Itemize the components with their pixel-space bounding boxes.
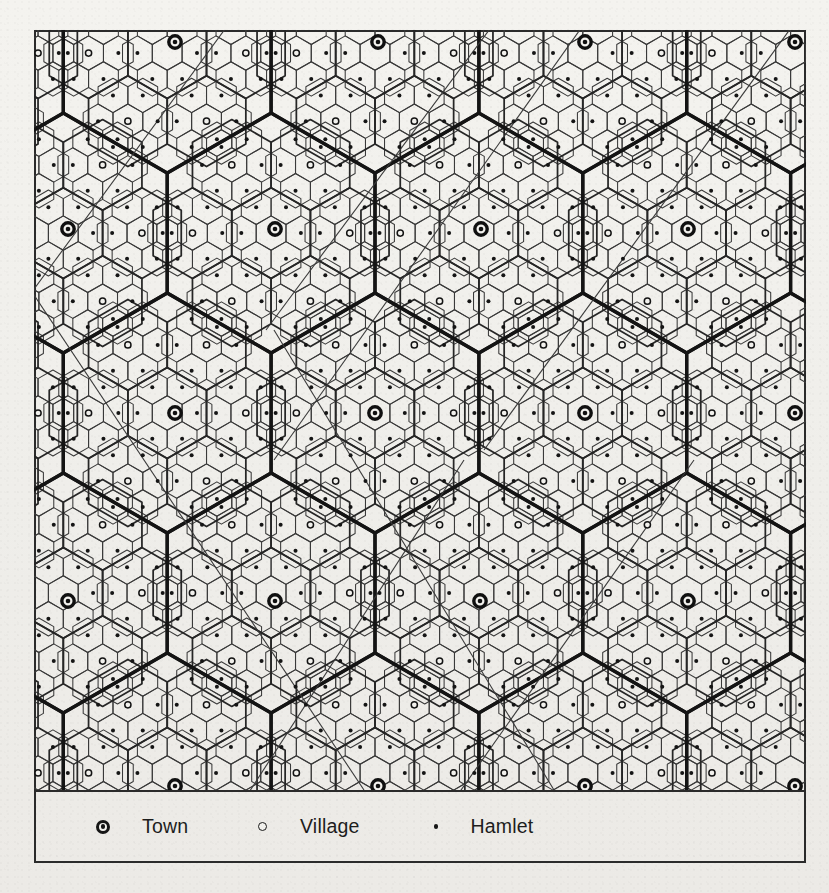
hamlet-marker bbox=[96, 343, 100, 347]
hamlet-marker bbox=[675, 659, 679, 663]
hamlet-marker bbox=[245, 497, 249, 501]
hamlet-marker bbox=[674, 385, 678, 389]
village-marker bbox=[515, 522, 521, 528]
hamlet-marker bbox=[422, 771, 426, 775]
village-marker bbox=[35, 50, 41, 56]
hamlet-marker bbox=[571, 479, 575, 483]
hamlet-marker bbox=[219, 505, 223, 509]
hamlet-marker bbox=[219, 369, 223, 373]
village-marker bbox=[189, 590, 195, 596]
hamlet-marker bbox=[635, 145, 639, 149]
hamlet-marker bbox=[621, 617, 625, 621]
hamlet-marker bbox=[442, 119, 446, 123]
hamlet-marker bbox=[799, 617, 803, 621]
village-marker bbox=[293, 770, 299, 776]
village-marker bbox=[229, 298, 235, 304]
hamlet-marker bbox=[527, 93, 531, 97]
hamlet-marker bbox=[46, 205, 50, 209]
hamlet-marker bbox=[501, 137, 505, 141]
hamlet-marker bbox=[190, 677, 194, 681]
hamlet-marker bbox=[734, 231, 738, 235]
hamlet-marker bbox=[66, 411, 70, 415]
hamlet-marker bbox=[605, 505, 609, 509]
legend-label-village: Village bbox=[300, 815, 360, 838]
hamlet-marker bbox=[333, 565, 337, 569]
hamlet-marker bbox=[798, 119, 802, 123]
hamlet-marker bbox=[245, 549, 249, 553]
hamlet-marker bbox=[556, 677, 560, 681]
hamlet-marker bbox=[324, 411, 328, 415]
hamlet-marker bbox=[72, 77, 76, 81]
hamlet-marker bbox=[254, 565, 258, 569]
hamlet-marker bbox=[739, 325, 743, 329]
hamlet-marker bbox=[472, 411, 476, 415]
village-marker bbox=[723, 162, 729, 168]
hamlet-marker bbox=[764, 93, 768, 97]
hamlet-marker bbox=[383, 343, 387, 347]
hamlet-marker bbox=[323, 497, 327, 501]
hamlet-marker bbox=[220, 231, 224, 235]
hamlet-marker bbox=[709, 189, 713, 193]
village-marker bbox=[411, 478, 417, 484]
hamlet-marker bbox=[383, 703, 387, 707]
hamlet-marker bbox=[531, 685, 535, 689]
hamlet-marker bbox=[566, 437, 570, 441]
hamlet-marker bbox=[739, 549, 743, 553]
hamlet-marker bbox=[501, 549, 505, 553]
hamlet-marker bbox=[799, 257, 803, 261]
hamlet-marker bbox=[76, 205, 80, 209]
hamlet-marker bbox=[481, 411, 485, 415]
central-place-map bbox=[34, 30, 806, 790]
hamlet-marker bbox=[319, 145, 323, 149]
hexagon bbox=[296, 782, 326, 791]
hexagon bbox=[296, 30, 326, 45]
hamlet-marker bbox=[774, 385, 778, 389]
hamlet-marker bbox=[51, 437, 55, 441]
hamlet-marker bbox=[556, 369, 560, 373]
hamlet-marker bbox=[205, 617, 209, 621]
hamlet-marker bbox=[695, 385, 699, 389]
town-marker-dot bbox=[479, 227, 484, 232]
hamlet-marker bbox=[798, 479, 802, 483]
hamlet-marker bbox=[86, 273, 90, 277]
hamlet-marker bbox=[37, 685, 41, 689]
hamlet-marker bbox=[111, 145, 115, 149]
hamlet-marker bbox=[694, 163, 698, 167]
hamlet-marker bbox=[259, 745, 263, 749]
hamlet-marker bbox=[734, 453, 738, 457]
hamlet-marker bbox=[670, 257, 674, 261]
hamlet-marker bbox=[200, 299, 204, 303]
hexagon bbox=[761, 30, 791, 45]
hamlet-marker bbox=[452, 549, 456, 553]
hamlet-marker bbox=[358, 77, 362, 81]
hamlet-marker bbox=[423, 633, 427, 637]
hamlet-marker bbox=[57, 51, 61, 55]
hamlet-marker bbox=[215, 137, 219, 141]
hamlet-marker bbox=[363, 343, 367, 347]
transport-routes bbox=[34, 30, 804, 790]
hamlet-marker bbox=[556, 145, 560, 149]
village-marker bbox=[723, 522, 729, 528]
village-symbol bbox=[258, 822, 267, 831]
hamlet-marker bbox=[486, 659, 490, 663]
hamlet-marker bbox=[709, 273, 713, 277]
hamlet-marker bbox=[279, 77, 283, 81]
village-marker bbox=[619, 478, 625, 484]
hamlet-marker bbox=[527, 505, 531, 509]
hamlet-marker bbox=[265, 411, 269, 415]
hamlet-marker bbox=[219, 677, 223, 681]
hamlet-marker bbox=[700, 565, 704, 569]
hamlet-marker bbox=[427, 145, 431, 149]
hamlet-marker bbox=[116, 685, 120, 689]
hamlet-marker bbox=[442, 479, 446, 483]
hamlet-marker bbox=[551, 411, 555, 415]
hamlet-marker bbox=[279, 659, 283, 663]
town-marker-dot bbox=[793, 411, 798, 416]
hamlet-marker bbox=[383, 479, 387, 483]
hamlet-marker bbox=[96, 703, 100, 707]
hamlet-marker bbox=[585, 231, 589, 235]
hamlet-marker bbox=[675, 299, 679, 303]
hamlet-marker bbox=[279, 523, 283, 527]
hamlet-marker bbox=[695, 77, 699, 81]
hamlet-marker bbox=[72, 745, 76, 749]
